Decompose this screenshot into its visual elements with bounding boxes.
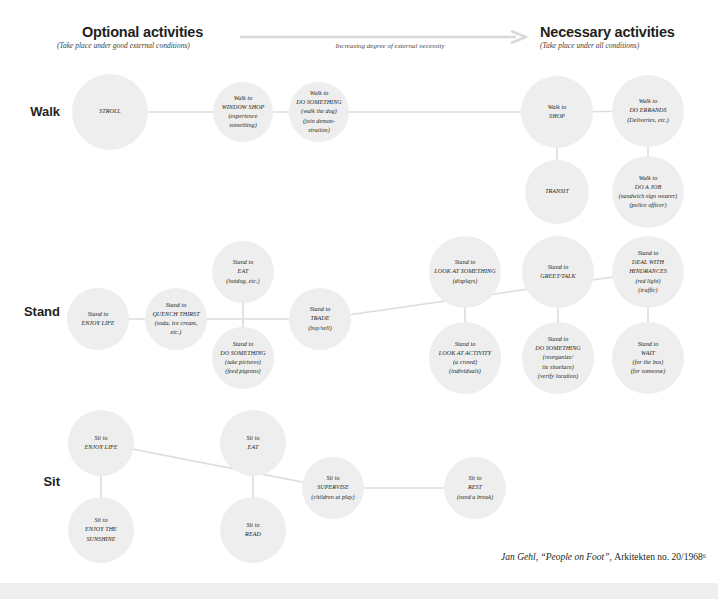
activity-node-label: Sit to SUPERVISE (children at play) (308, 474, 357, 502)
activity-node-walk-shop[interactable]: Walk to SHOP (521, 76, 593, 148)
activity-node-stand-quench-thirst[interactable]: Stand to QUENCH THIRST (soda, ice cream,… (145, 288, 207, 350)
activity-node-stand-deal-hindrances[interactable]: Stand to DEAL WITH HINDRANCES (red light… (612, 236, 684, 308)
activity-node-walk-window-shop[interactable]: Walk to WINDOW SHOP (experience somethin… (213, 82, 273, 142)
activity-node-label: STROLL (96, 107, 124, 116)
activity-node-label: TRANSIT (542, 187, 572, 196)
source-credit-tail: Arkitekten no. 20/1968⁶ (614, 552, 706, 562)
activity-node-sit-supervise[interactable]: Sit to SUPERVISE (children at play) (302, 457, 364, 519)
activity-node-label: Sit to ENJOY LIFE (81, 434, 120, 452)
activity-node-walk-stroll[interactable]: STROLL (72, 74, 148, 150)
activity-node-stand-trade[interactable]: Stand to TRADE (buy/sell) (289, 288, 351, 350)
activity-node-stand-greet-talk[interactable]: Stand to GREET/TALK (522, 236, 594, 308)
activity-node-label: Stand to LOOK AT SOMETHING (displays) (431, 258, 498, 286)
activity-node-sit-enjoy-sunshine[interactable]: Sit to ENJOY THE SUNSHINE (68, 497, 134, 563)
activity-node-stand-wait[interactable]: Stand to WAIT (for the bus) (for someone… (612, 322, 684, 394)
activity-node-walk-transit[interactable]: TRANSIT (525, 160, 589, 224)
activity-node-stand-do-something[interactable]: Stand to DO SOMETHING (take pictures) (f… (212, 327, 274, 389)
connector-sit-enjoy-life-to-sit-supervise (101, 443, 333, 488)
activity-node-walk-do-errands[interactable]: Walk to DO ERRANDS (Deliveries, etc.) (612, 75, 684, 147)
activity-node-sit-rest[interactable]: Sit to REST (need a break) (444, 457, 506, 519)
activity-node-label: Sit to READ (242, 521, 264, 539)
source-credit: Jan Gehl, “People on Foot”, Arkitekten n… (501, 552, 706, 562)
activity-node-label: Stand to TRADE (buy/sell) (305, 305, 335, 333)
activity-node-label: Walk to WINDOW SHOP (experience somethin… (219, 94, 268, 131)
activity-node-sit-enjoy-life[interactable]: Sit to ENJOY LIFE (68, 410, 134, 476)
activity-node-label: Stand to ENJOY LIFE (78, 310, 117, 328)
activity-node-label: Walk to DO SOMETHING (walk the dog) (joi… (293, 89, 344, 135)
activity-node-label: Walk to DO ERRANDS (Deliveries, etc.) (624, 97, 672, 125)
activity-node-label: Sit to REST (need a break) (454, 474, 496, 502)
bottom-bar (0, 583, 718, 599)
activity-node-stand-look-at-something[interactable]: Stand to LOOK AT SOMETHING (displays) (429, 236, 501, 308)
activity-node-label: Walk to DO A JOB (sandwich sign wearer) … (616, 174, 680, 211)
activity-node-label: Sit to ENJOY THE SUNSHINE (68, 516, 134, 544)
activity-node-stand-eat[interactable]: Stand to EAT (hotdog, etc.) (212, 241, 274, 303)
activity-node-stand-do-something-2[interactable]: Stand to DO SOMETHING (reorganize/ tie s… (522, 322, 594, 394)
activity-node-walk-do-something[interactable]: Walk to DO SOMETHING (walk the dog) (joi… (289, 82, 349, 142)
activity-node-label: Stand to QUENCH THIRST (soda, ice cream,… (149, 301, 202, 338)
activity-node-label: Walk to SHOP (545, 103, 570, 121)
source-credit-main: Jan Gehl, “People on Foot”, (501, 552, 614, 562)
activity-node-label: Stand to LOOK AT ACTIVITY (a crowd) (ind… (436, 340, 494, 377)
activity-node-label: Stand to EAT (hotdog, etc.) (223, 258, 262, 286)
activity-node-label: Stand to DEAL WITH HINDRANCES (red light… (626, 249, 670, 295)
activity-node-label: Sit to EAT (244, 434, 263, 452)
diagram-canvas: Optional activities (Take place under go… (0, 0, 718, 599)
activity-node-stand-enjoy-life[interactable]: Stand to ENJOY LIFE (67, 288, 129, 350)
activity-node-label: Stand to DO SOMETHING (take pictures) (f… (217, 340, 268, 377)
activity-node-label: Stand to DO SOMETHING (reorganize/ tie s… (532, 335, 583, 381)
activity-node-walk-do-a-job[interactable]: Walk to DO A JOB (sandwich sign wearer) … (612, 156, 684, 228)
activity-node-label: Stand to WAIT (for the bus) (for someone… (628, 340, 669, 377)
activity-node-sit-eat[interactable]: Sit to EAT (220, 410, 286, 476)
activity-node-stand-look-at-activity[interactable]: Stand to LOOK AT ACTIVITY (a crowd) (ind… (429, 322, 501, 394)
activity-node-sit-read[interactable]: Sit to READ (220, 497, 286, 563)
activity-node-label: Stand to GREET/TALK (537, 263, 578, 281)
